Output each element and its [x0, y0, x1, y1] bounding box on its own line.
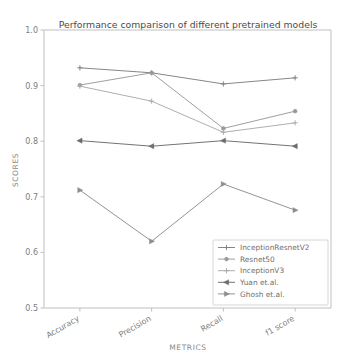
legend-label: Yuan et.al.	[239, 278, 279, 287]
chart-figure: Performance comparison of different pret…	[0, 0, 356, 364]
chart-legend[interactable]: InceptionResnetV2Resnet50InceptionV3Yuan…	[213, 240, 328, 305]
y-axis-title: SCORES	[11, 153, 20, 187]
legend-label: Resnet50	[240, 255, 275, 264]
x-axis-ticks: AccuracyPrecisionRecallf1 score	[45, 308, 296, 340]
series-yuan-et-al	[77, 138, 297, 149]
chart-canvas: Performance comparison of different pret…	[0, 0, 356, 364]
y-tick-label: 0.6	[25, 248, 38, 257]
x-tick-label: Recall	[199, 314, 224, 334]
y-tick-label: 0.7	[25, 193, 38, 202]
x-tick-label: f1 score	[264, 314, 296, 338]
legend-label: InceptionV3	[240, 266, 284, 275]
series-ghosh-et-al	[78, 181, 298, 243]
legend-label: InceptionResnetV2	[240, 243, 309, 252]
y-tick-label: 0.8	[25, 137, 38, 146]
y-tick-label: 0.9	[25, 82, 38, 91]
legend-label: Ghosh et.al.	[240, 290, 285, 299]
x-tick-label: Precision	[117, 314, 152, 340]
y-axis-ticks: 0.50.60.70.80.91.0	[25, 26, 44, 313]
series-resnet50	[78, 71, 297, 130]
chart-title: Performance comparison of different pret…	[59, 19, 318, 30]
series-inceptionv3	[77, 84, 297, 135]
series-layer	[77, 65, 298, 244]
y-tick-label: 1.0	[25, 26, 38, 35]
y-tick-label: 0.5	[25, 304, 38, 313]
x-axis-title: METRICS	[169, 343, 206, 352]
x-tick-label: Accuracy	[45, 314, 81, 340]
series-inceptionresnetv2	[77, 65, 297, 86]
